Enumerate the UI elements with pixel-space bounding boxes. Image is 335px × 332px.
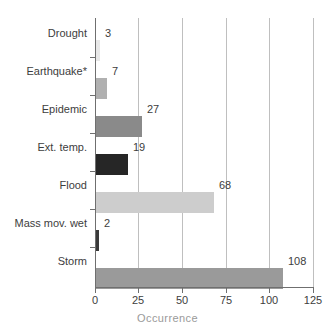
gridline-100 <box>269 18 270 287</box>
value-label-storm: 108 <box>288 255 306 267</box>
x-tick-label-0: 0 <box>92 294 98 306</box>
category-label-earthquake: Earthquake* <box>26 65 87 77</box>
x-tick-label-125: 125 <box>304 294 322 306</box>
y-tick-2 <box>90 133 95 134</box>
gridline-75 <box>226 18 227 287</box>
y-axis-line <box>95 18 96 287</box>
bar-earthquake <box>95 78 107 99</box>
category-label-ext-temp: Ext. temp. <box>37 141 87 153</box>
x-tick-50 <box>182 288 183 293</box>
value-label-mass-mov-wet: 2 <box>104 217 110 229</box>
value-label-drought: 3 <box>105 27 111 39</box>
y-tick-0 <box>90 57 95 58</box>
x-axis-title: Occurrence <box>0 312 335 324</box>
y-tick-1 <box>90 95 95 96</box>
bar-storm <box>95 268 283 289</box>
category-label-drought: Drought <box>48 27 87 39</box>
x-tick-label-100: 100 <box>260 294 278 306</box>
chart-figure: Drought Earthquake* Epidemic Ext. temp. … <box>0 0 335 332</box>
y-tick-3 <box>90 171 95 172</box>
category-label-mass-mov-wet: Mass mov. wet <box>14 217 87 229</box>
value-label-epidemic: 27 <box>147 103 159 115</box>
x-tick-125 <box>313 288 314 293</box>
value-label-ext-temp: 19 <box>133 141 145 153</box>
bar-ext-temp <box>95 154 128 175</box>
y-tick-4 <box>90 209 95 210</box>
x-tick-label-50: 50 <box>176 294 188 306</box>
category-label-storm: Storm <box>58 255 87 267</box>
value-label-earthquake: 7 <box>112 65 118 77</box>
x-tick-label-25: 25 <box>132 294 144 306</box>
gridline-50 <box>182 18 183 287</box>
category-label-flood: Flood <box>59 179 87 191</box>
bar-epidemic <box>95 116 142 137</box>
bar-flood <box>95 192 214 213</box>
x-axis-line <box>95 287 314 288</box>
plot-area <box>95 18 313 287</box>
gridline-125 <box>313 18 314 287</box>
x-tick-0 <box>95 288 96 293</box>
category-label-epidemic: Epidemic <box>42 103 87 115</box>
x-tick-100 <box>269 288 270 293</box>
value-label-flood: 68 <box>219 179 231 191</box>
y-tick-5 <box>90 247 95 248</box>
x-tick-25 <box>138 288 139 293</box>
x-tick-label-75: 75 <box>220 294 232 306</box>
x-tick-75 <box>226 288 227 293</box>
